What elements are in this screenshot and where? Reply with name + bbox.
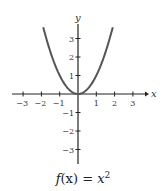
x-tick-label: −2: [35, 99, 47, 108]
x-tick-label: 1: [94, 99, 99, 108]
y-tick-label: −1: [62, 109, 74, 118]
caption-equals: =: [78, 171, 97, 186]
y-axis-label: y: [74, 12, 81, 23]
x-axis-arrow-icon: [145, 92, 149, 97]
y-tick-label: 3: [69, 35, 74, 44]
x-tick-label: −3: [16, 99, 28, 108]
y-tick-label: −2: [62, 127, 74, 136]
x-tick-label: −1: [53, 99, 65, 108]
caption-base: x: [97, 171, 104, 186]
caption-argument: (x): [61, 171, 78, 186]
x-tick-label: 2: [112, 99, 117, 108]
y-tick-label: 1: [69, 72, 74, 81]
function-graph: −3−2−1123−3−2−1123 x y: [0, 0, 166, 191]
function-caption: f(x) = x2: [0, 170, 166, 186]
caption-exponent: 2: [105, 170, 111, 180]
y-tick-label: −3: [62, 146, 74, 155]
x-axis-label: x: [151, 88, 157, 99]
x-tick-label: 3: [130, 99, 135, 108]
y-tick-label: 2: [69, 53, 74, 62]
